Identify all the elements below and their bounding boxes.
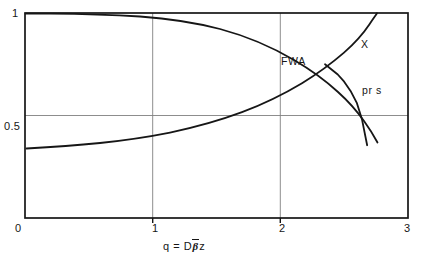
curve-label-x: X — [361, 38, 369, 50]
beta-bar-symbol: β — [192, 240, 199, 252]
curve-label-prs: pr s — [362, 84, 382, 96]
xtick-label-0: 0 — [15, 222, 21, 234]
curve-label-fwa: FWA — [281, 55, 306, 67]
xtick-label-1: 1 — [152, 222, 158, 234]
xtick-label-2: 2 — [279, 222, 285, 234]
xtick-label-3: 3 — [404, 222, 410, 234]
x-axis-title: q = Dβz — [163, 240, 205, 252]
ytick-label-05: 0.5 — [4, 120, 20, 132]
ytick-label-1: 1 — [12, 7, 18, 19]
